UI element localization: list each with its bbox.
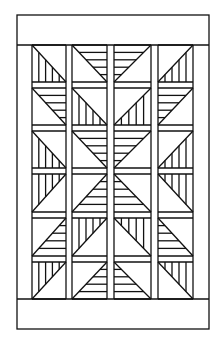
block-diagonal — [158, 45, 193, 82]
quilt-block-r3-c0 — [32, 174, 66, 212]
quilt-block-r1-c2 — [114, 88, 151, 125]
block-diagonal — [32, 174, 66, 212]
block-diagonal — [72, 174, 107, 212]
quilt-block-r4-c0 — [32, 218, 66, 256]
block-diagonal — [114, 174, 151, 212]
block-diagonal — [72, 88, 107, 125]
block-diagonal — [158, 88, 193, 125]
quilt-block-r2-c1 — [72, 131, 107, 168]
quilt-blocks — [32, 45, 193, 299]
block-diagonal — [114, 45, 151, 82]
block-diagonal — [158, 174, 193, 212]
quilt-block-r1-c0 — [32, 88, 66, 125]
quilt-block-r5-c3 — [158, 262, 193, 299]
quilt-block-r4-c1 — [72, 218, 107, 256]
block-diagonal — [72, 262, 107, 299]
block-diagonal — [32, 218, 66, 256]
quilt-block-r4-c3 — [158, 218, 193, 256]
block-diagonal — [32, 88, 66, 125]
quilt-block-r1-c1 — [72, 88, 107, 125]
quilt-block-r0-c3 — [158, 45, 193, 82]
block-diagonal — [114, 262, 151, 299]
quilt-block-r3-c3 — [158, 174, 193, 212]
block-diagonal — [32, 45, 66, 82]
block-diagonal — [114, 131, 151, 168]
block-diagonal — [32, 262, 66, 299]
block-diagonal — [158, 262, 193, 299]
quilt-block-r2-c2 — [114, 131, 151, 168]
quilt-block-r0-c1 — [72, 45, 107, 82]
quilt-block-r2-c3 — [158, 131, 193, 168]
quilt-block-r4-c2 — [114, 218, 151, 256]
block-diagonal — [72, 45, 107, 82]
quilt-block-r3-c1 — [72, 174, 107, 212]
block-diagonal — [158, 218, 193, 256]
quilt-block-r2-c0 — [32, 131, 66, 168]
quilt-block-r0-c0 — [32, 45, 66, 82]
block-diagonal — [72, 131, 107, 168]
block-diagonal — [158, 131, 193, 168]
quilt-pattern-drawing — [0, 0, 218, 350]
quilt-block-r5-c0 — [32, 262, 66, 299]
quilt-block-r3-c2 — [114, 174, 151, 212]
block-diagonal — [114, 88, 151, 125]
block-diagonal — [32, 131, 66, 168]
sashing-grid — [32, 45, 193, 299]
quilt-block-r1-c3 — [158, 88, 193, 125]
block-diagonal — [72, 218, 107, 256]
block-diagonal — [114, 218, 151, 256]
quilt-block-r5-c2 — [114, 262, 151, 299]
quilt-block-r5-c1 — [72, 262, 107, 299]
quilt-block-r0-c2 — [114, 45, 151, 82]
